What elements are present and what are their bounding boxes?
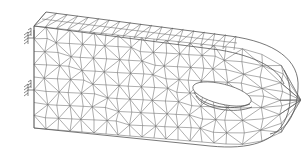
fixed-support-icon bbox=[24, 80, 34, 96]
mesh-drawing bbox=[0, 0, 308, 158]
fixed-support-icon bbox=[24, 28, 34, 44]
fem-mesh-figure bbox=[0, 0, 308, 158]
triangular-mesh bbox=[34, 12, 301, 144]
